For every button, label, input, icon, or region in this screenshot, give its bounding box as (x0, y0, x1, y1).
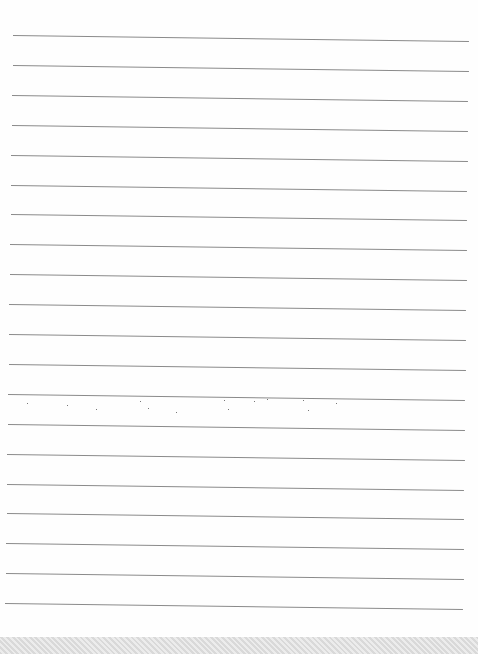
ruled-line (7, 454, 465, 461)
ruled-line (7, 513, 464, 520)
ruled-line (8, 424, 465, 431)
ruled-line (7, 484, 464, 491)
faint-marks (0, 398, 478, 418)
ruled-line (13, 35, 469, 42)
ruled-line (6, 573, 464, 580)
ruled-line (5, 603, 463, 610)
ruled-line (9, 364, 466, 371)
bottom-gray-strip (0, 637, 478, 654)
ruled-line (9, 334, 466, 341)
ruled-line (12, 95, 468, 102)
ruled-line (11, 214, 467, 221)
ruled-line (9, 304, 466, 311)
ruled-line (12, 125, 468, 132)
ruled-line (11, 155, 468, 162)
lined-paper (0, 0, 478, 636)
ruled-line (10, 244, 467, 251)
ruled-line (6, 543, 464, 550)
ruled-line (13, 65, 469, 72)
ruled-line (11, 185, 467, 192)
ruled-line (10, 274, 467, 281)
